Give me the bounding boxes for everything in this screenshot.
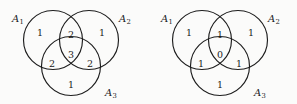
region-a2-a3-value: 1 <box>232 59 246 69</box>
set-label-a3-text: A <box>105 87 112 98</box>
region-a2-a3-value: 2 <box>83 59 97 69</box>
region-a1-only-value: 1 <box>182 28 196 38</box>
region-a1-only-value: 1 <box>33 28 47 38</box>
region-a3-only-value: 1 <box>64 80 78 90</box>
region-a1-a3-value: 2 <box>45 59 59 69</box>
region-a3-only-value: 1 <box>213 80 227 90</box>
set-label-a2-text: A <box>119 13 126 24</box>
venn-diagram-left: 1 1 2 3 2 2 1 A1 A2 A3 <box>0 0 148 104</box>
set-label-a1-subscript: 1 <box>20 18 24 26</box>
region-center-value: 3 <box>64 50 78 60</box>
set-label-a3-subscript: 3 <box>113 92 117 100</box>
region-a2-only-value: 1 <box>95 28 109 38</box>
set-label-a3-text: A <box>254 87 261 98</box>
set-label-a1-text: A <box>12 13 19 24</box>
set-label-a1-subscript: 1 <box>169 18 173 26</box>
region-a1-a3-value: 1 <box>194 59 208 69</box>
set-label-a1: A1 <box>12 14 24 24</box>
set-label-a2-text: A <box>268 13 275 24</box>
set-label-a2-subscript: 2 <box>127 18 131 26</box>
set-label-a2-subscript: 2 <box>276 18 280 26</box>
set-label-a2: A2 <box>268 14 280 24</box>
set-label-a1: A1 <box>161 14 173 24</box>
set-label-a3: A3 <box>254 88 266 98</box>
set-label-a2: A2 <box>119 14 131 24</box>
region-a1-a2-value: 2 <box>64 30 78 40</box>
venn-figure: 1 1 2 3 2 2 1 A1 A2 A3 1 1 1 0 1 1 1 A1 … <box>0 0 297 104</box>
set-label-a3-subscript: 3 <box>262 92 266 100</box>
region-a1-a2-value: 1 <box>213 30 227 40</box>
set-label-a1-text: A <box>161 13 168 24</box>
venn-diagram-right: 1 1 1 0 1 1 1 A1 A2 A3 <box>149 0 297 104</box>
region-center-value: 0 <box>213 50 227 60</box>
region-a2-only-value: 1 <box>244 28 258 38</box>
set-label-a3: A3 <box>105 88 117 98</box>
